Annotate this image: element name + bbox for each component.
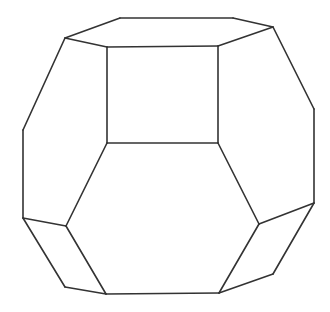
polyhedron-edges: [23, 18, 314, 294]
edge-DI: [23, 38, 65, 130]
edge-BC: [233, 18, 273, 27]
edge-DE: [65, 38, 107, 47]
edge-NH: [218, 143, 259, 224]
edge-MG: [66, 143, 107, 226]
edge-AD: [65, 18, 120, 38]
edge-CF: [218, 27, 273, 46]
edge-JM: [23, 218, 66, 226]
edge-CK: [273, 27, 314, 109]
edge-MO: [66, 226, 106, 294]
truncated-octahedron-drawing: [0, 0, 330, 312]
edge-LR: [273, 203, 314, 274]
edge-OP: [106, 293, 219, 294]
edge-EF: [107, 46, 218, 47]
edge-RP: [219, 274, 273, 293]
edge-NP: [219, 224, 259, 293]
edge-JQ: [23, 218, 65, 287]
edge-LN: [259, 203, 314, 224]
edge-QO: [65, 287, 106, 294]
